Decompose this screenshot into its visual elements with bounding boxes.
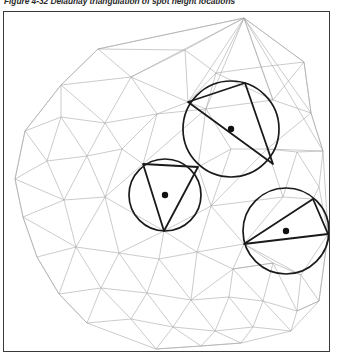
left-circumcircle [129,159,201,231]
figure-frame [3,11,330,352]
left-circumcircle-center-dot [162,192,168,198]
delaunay-triangulation-diagram [4,12,329,351]
top-circumcircle-center-dot [228,126,234,132]
right-inscribed-triangle [244,199,328,244]
top-inscribed-triangle [188,83,273,164]
figure-page: Figure 4-32 Delaunay triangulation of sp… [0,0,346,359]
top-circumcircle [183,81,279,177]
right-circumcircle-center-dot [283,228,289,234]
figure-caption: Figure 4-32 Delaunay triangulation of sp… [4,0,344,8]
triangulation-mesh [15,18,328,349]
right-circumcircle [243,188,329,274]
